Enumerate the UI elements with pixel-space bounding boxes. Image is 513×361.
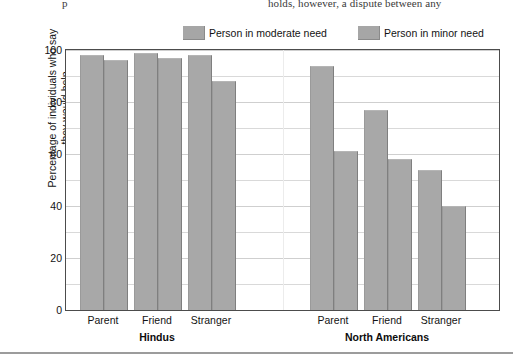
bar-hindus-friend-minor [158, 58, 182, 310]
bar-north-americans-stranger-minor [442, 206, 466, 310]
bar-north-americans-friend-moderate [364, 110, 388, 310]
bar-hindus-parent-minor [104, 60, 128, 310]
bar-north-americans-friend-minor [388, 159, 412, 310]
y-tick-label-0: 0 [32, 304, 62, 316]
bar-chart: Percentage of individuals who say they w… [0, 0, 513, 361]
bar-series-container [66, 50, 499, 310]
bar-north-americans-stranger-moderate [418, 170, 442, 310]
bar-hindus-stranger-moderate [188, 55, 212, 310]
x-group-label-hindus: Hindus [77, 331, 237, 343]
plot-area [65, 49, 500, 311]
y-tick-label-20: 20 [32, 252, 62, 264]
x-category-label-5: Stranger [406, 314, 476, 326]
y-tick-label-80: 80 [32, 96, 62, 108]
bar-hindus-parent-moderate [80, 55, 104, 310]
page-bottom-rule [0, 352, 513, 354]
bar-hindus-friend-moderate [134, 53, 158, 310]
x-category-label-2: Stranger [176, 314, 246, 326]
bar-hindus-stranger-minor [212, 81, 236, 310]
y-tick-label-60: 60 [32, 148, 62, 160]
bar-north-americans-parent-moderate [310, 66, 334, 310]
bar-north-americans-parent-minor [334, 151, 358, 310]
x-group-label-north-americans: North Americans [307, 331, 467, 343]
y-axis-ticks: 020406080100 [28, 49, 62, 311]
x-axis-labels: ParentFriendStrangerParentFriendStranger… [65, 314, 500, 354]
y-tick-label-40: 40 [32, 200, 62, 212]
y-tick-label-100: 100 [32, 44, 62, 56]
